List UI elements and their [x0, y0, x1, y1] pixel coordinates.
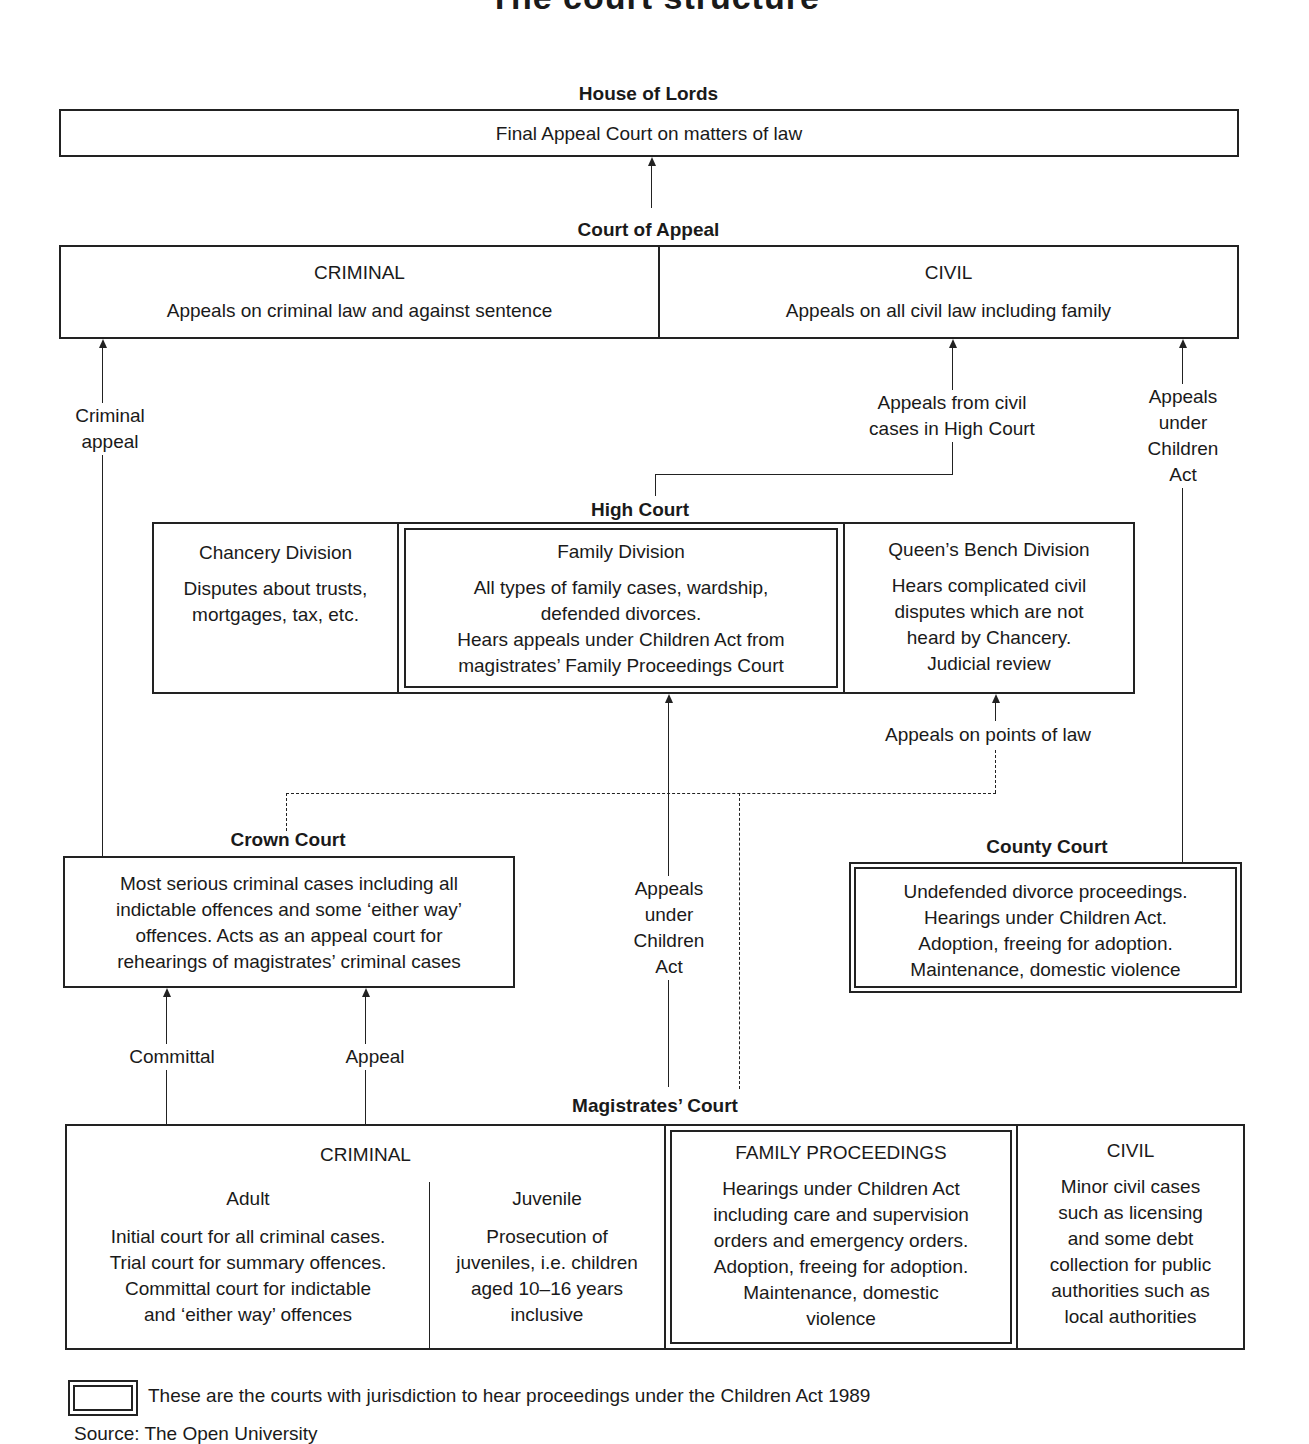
civil-appeal-line	[655, 474, 953, 475]
magistrates-civil-text: Minor civil casessuch as licensingand so…	[1018, 1164, 1243, 1330]
chancery-text: Disputes about trusts,mortgages, tax, et…	[154, 566, 397, 628]
queens-bench-text: Hears complicated civildisputes which ar…	[845, 563, 1133, 677]
committal-label: Committal	[112, 1044, 232, 1070]
points-of-law-dashed-line	[995, 750, 996, 793]
connector-line	[651, 160, 652, 208]
arrow-up-icon	[992, 694, 1000, 703]
source-text: Source: The Open University	[74, 1423, 318, 1444]
appeal-label: Appeal	[325, 1044, 425, 1070]
juvenile-title: Juvenile	[430, 1186, 664, 1212]
civil-text: Appeals on all civil law including famil…	[660, 286, 1237, 324]
crown-court-text: Most serious criminal cases including al…	[65, 858, 513, 975]
diagram-title: The court structure	[0, 0, 1309, 17]
arrow-up-icon	[362, 988, 370, 997]
adult-text: Initial court for all criminal cases.Tri…	[67, 1212, 429, 1328]
family-proceedings-title: FAMILY PROCEEDINGS	[672, 1132, 1010, 1166]
house-of-lords-text: Final Appeal Court on matters of law	[61, 111, 1237, 147]
points-of-law-dashed-line	[286, 793, 287, 831]
civil-appeal-line	[655, 474, 656, 496]
magistrates-criminal: CRIMINAL Adult Initial court for all cri…	[67, 1126, 664, 1348]
house-of-lords-box: Final Appeal Court on matters of law	[59, 109, 1239, 157]
court-of-appeal-civil: CIVIL Appeals on all civil law including…	[658, 247, 1237, 337]
court-of-appeal-heading: Court of Appeal	[0, 219, 1297, 241]
magistrates-family-proceedings: FAMILY PROCEEDINGS Hearings under Childr…	[664, 1126, 1016, 1348]
high-court-box: Chancery Division Disputes about trusts,…	[152, 522, 1135, 694]
magistrates-civil: CIVIL Minor civil casessuch as licensing…	[1016, 1126, 1243, 1348]
magistrates-civil-title: CIVIL	[1018, 1126, 1243, 1164]
arrow-up-icon	[99, 339, 107, 348]
chancery-division: Chancery Division Disputes about trusts,…	[154, 524, 397, 692]
appeals-children-act-mid-label: AppealsunderChildrenAct	[623, 876, 715, 980]
juvenile-text: Prosecution ofjuveniles, i.e. childrenag…	[430, 1212, 664, 1328]
points-of-law-dashed-line	[739, 793, 740, 1089]
magistrates-adult: Adult Initial court for all criminal cas…	[67, 1186, 429, 1328]
criminal-title: CRIMINAL	[61, 247, 658, 286]
adult-title: Adult	[67, 1186, 429, 1212]
magistrates-criminal-title: CRIMINAL	[67, 1126, 664, 1168]
county-court-box: Undefended divorce proceedings.Hearings …	[849, 862, 1242, 993]
points-of-law-dashed-line	[286, 793, 996, 794]
crown-court-heading: Crown Court	[188, 829, 388, 851]
court-of-appeal-box: CRIMINAL Appeals on criminal law and aga…	[59, 245, 1239, 339]
legend-text: These are the courts with jurisdiction t…	[148, 1385, 870, 1407]
family-text: All types of family cases, wardship,defe…	[406, 565, 836, 679]
family-title: Family Division	[406, 530, 836, 565]
criminal-text: Appeals on criminal law and against sent…	[61, 286, 658, 324]
civil-title: CIVIL	[660, 247, 1237, 286]
appeals-children-act-right-label: AppealsunderChildrenAct	[1133, 384, 1233, 488]
house-of-lords-heading: House of Lords	[0, 83, 1297, 105]
appeals-from-civil-label: Appeals from civilcases in High Court	[842, 390, 1062, 442]
appeals-points-of-law-label: Appeals on points of law	[858, 722, 1118, 748]
double-border-box-icon	[68, 1380, 138, 1416]
queens-bench-title: Queen’s Bench Division	[845, 524, 1133, 563]
family-proceedings-text: Hearings under Children Actincluding car…	[672, 1166, 1010, 1332]
arrow-up-icon	[949, 339, 957, 348]
crown-court-box: Most serious criminal cases including al…	[63, 856, 515, 988]
arrow-up-icon	[665, 694, 673, 703]
county-court-text: Undefended divorce proceedings.Hearings …	[856, 869, 1235, 983]
court-of-appeal-criminal: CRIMINAL Appeals on criminal law and aga…	[61, 247, 658, 337]
magistrates-court-heading: Magistrates’ Court	[530, 1095, 780, 1117]
queens-bench-division: Queen’s Bench Division Hears complicated…	[843, 524, 1133, 692]
magistrates-court-box: CRIMINAL Adult Initial court for all cri…	[65, 1124, 1245, 1350]
magistrates-juvenile: Juvenile Prosecution ofjuveniles, i.e. c…	[430, 1186, 664, 1328]
family-division: Family Division All types of family case…	[397, 524, 843, 692]
county-court-heading: County Court	[947, 836, 1147, 858]
arrow-up-icon	[163, 988, 171, 997]
arrow-up-icon	[648, 157, 656, 166]
high-court-heading: High Court	[540, 499, 740, 521]
criminal-appeal-label: Criminalappeal	[60, 403, 160, 455]
chancery-title: Chancery Division	[154, 524, 397, 566]
arrow-up-icon	[1179, 339, 1187, 348]
